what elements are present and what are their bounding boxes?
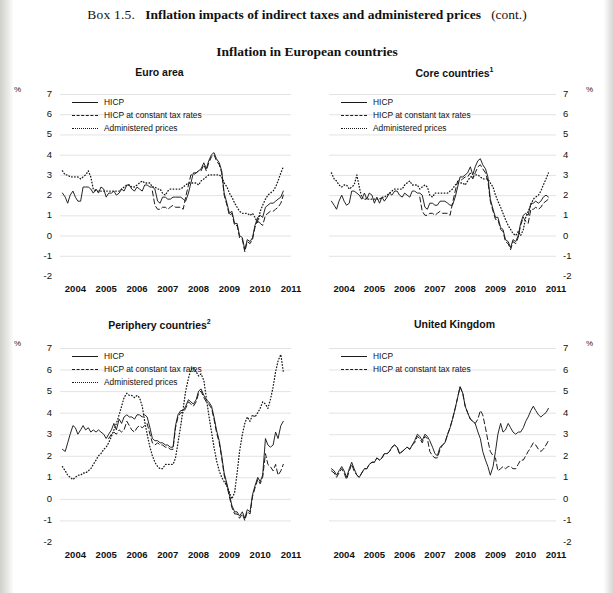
legend-united-kingdom: HICPHICP at constant tax rates <box>341 350 471 376</box>
legend-swatch-dashed-icon <box>72 110 98 120</box>
legend-periphery-countries: HICPHICP at constant tax ratesAdminister… <box>72 350 202 389</box>
x-axis-tick-label: 2011 <box>271 549 311 560</box>
y-axis-tick-label: 7 <box>30 88 52 99</box>
y-axis-tick-label: 6 <box>563 108 585 119</box>
y-axis-tick-label: 5 <box>30 385 52 396</box>
chart-panel-euro-area: Euro area76543210-1-2%200420052006200720… <box>12 66 307 310</box>
legend-swatch-solid-icon <box>72 351 98 361</box>
y-axis-tick-label: -2 <box>563 270 585 281</box>
legend-label: HICP <box>104 351 124 361</box>
box-heading: Box 1.5. Inflation impacts of indirect t… <box>0 7 614 23</box>
legend-item: HICP at constant tax rates <box>341 363 471 375</box>
y-axis-tick-label: -1 <box>563 250 585 261</box>
x-axis-tick-label: 2011 <box>536 283 576 294</box>
y-axis-tick-label: 2 <box>30 450 52 461</box>
y-axis-tick-label: 6 <box>30 364 52 375</box>
y-axis-unit-label: % <box>14 85 21 94</box>
y-axis-tick-label: 2 <box>563 450 585 461</box>
chart-title-text: Core countries <box>415 67 489 79</box>
y-axis-tick-label: 5 <box>563 128 585 139</box>
chart-title-euro-area: Euro area <box>12 66 307 78</box>
legend-item: HICP at constant tax rates <box>72 109 202 121</box>
plot-area-united-kingdom <box>329 348 556 542</box>
legend-swatch-dashed-icon <box>72 364 98 374</box>
series-line <box>152 155 283 252</box>
y-axis-tick-label: 0 <box>563 493 585 504</box>
figure-subtitle: Inflation in European countries <box>0 44 614 60</box>
chart-title-footnote-marker: 1 <box>490 66 494 73</box>
y-axis-tick-label: 2 <box>563 189 585 200</box>
chart-panel-core-countries: Core countries176543210-1-2%200420052006… <box>307 66 602 310</box>
legend-label: HICP <box>104 97 124 107</box>
y-axis-tick-label: 5 <box>30 128 52 139</box>
chart-title-footnote-marker: 2 <box>207 318 211 325</box>
legend-item: HICP <box>72 96 202 108</box>
box-title: Inflation impacts of indirect taxes and … <box>145 7 481 22</box>
y-axis-tick-label: -2 <box>30 536 52 547</box>
y-axis-tick-label: 3 <box>563 169 585 180</box>
legend-item: HICP <box>341 350 471 362</box>
legend-label: HICP <box>373 351 393 361</box>
series-line <box>62 153 283 250</box>
legend-item: Administered prices <box>341 122 471 134</box>
y-axis-tick-label: -1 <box>563 514 585 525</box>
y-axis-tick-label: 5 <box>563 385 585 396</box>
chart-title-text: Euro area <box>135 66 183 78</box>
legend-label: HICP at constant tax rates <box>104 110 202 120</box>
legend-core-countries: HICPHICP at constant tax ratesAdminister… <box>341 96 471 135</box>
chart-title-text: United Kingdom <box>414 318 495 330</box>
y-axis-tick-label: 4 <box>563 407 585 418</box>
y-axis-tick-label: 2 <box>30 189 52 200</box>
y-axis-tick-label: 0 <box>30 230 52 241</box>
legend-swatch-dotted-icon <box>72 123 98 133</box>
legend-item: HICP at constant tax rates <box>341 109 471 121</box>
legend-label: HICP at constant tax rates <box>373 110 471 120</box>
y-axis-tick-label: -2 <box>563 536 585 547</box>
y-axis-tick-label: 1 <box>563 209 585 220</box>
chart-title-text: Periphery countries <box>108 319 207 331</box>
legend-label: HICP <box>373 97 393 107</box>
y-axis-tick-label: 1 <box>30 209 52 220</box>
series-line <box>420 165 549 250</box>
legend-item: Administered prices <box>72 376 202 388</box>
box-continued: (cont.) <box>491 7 527 22</box>
y-axis-tick-label: 1 <box>563 471 585 482</box>
legend-label: HICP at constant tax rates <box>373 364 471 374</box>
chart-title-united-kingdom: United Kingdom <box>307 318 602 330</box>
y-axis-tick-label: -1 <box>30 514 52 525</box>
legend-swatch-dotted-icon <box>341 123 367 133</box>
legend-label: Administered prices <box>104 377 178 387</box>
plot-svg-united-kingdom <box>329 348 556 542</box>
box-number: Box 1.5. <box>87 7 135 22</box>
y-axis-tick-label: 1 <box>30 471 52 482</box>
x-axis-tick-label: 2011 <box>271 283 311 294</box>
x-axis-tick-label: 2011 <box>536 549 576 560</box>
y-axis-unit-label: % <box>586 339 593 348</box>
y-axis-tick-label: 3 <box>30 428 52 439</box>
legend-item: Administered prices <box>72 122 202 134</box>
legend-swatch-solid-icon <box>341 351 367 361</box>
legend-label: Administered prices <box>373 123 447 133</box>
y-axis-tick-label: -2 <box>30 270 52 281</box>
legend-euro-area: HICPHICP at constant tax ratesAdminister… <box>72 96 202 135</box>
y-axis-tick-label: -1 <box>30 250 52 261</box>
y-axis-tick-label: 4 <box>30 407 52 418</box>
y-axis-unit-label: % <box>14 339 21 348</box>
y-axis-tick-label: 6 <box>30 108 52 119</box>
y-axis-unit-label: % <box>586 85 593 94</box>
legend-item: HICP <box>341 96 471 108</box>
chart-panel-united-kingdom: United Kingdom76543210-1-2%2004200520062… <box>307 318 602 582</box>
legend-swatch-solid-icon <box>72 97 98 107</box>
series-line <box>109 391 284 520</box>
y-axis-tick-label: 7 <box>563 342 585 353</box>
legend-label: HICP at constant tax rates <box>104 364 202 374</box>
chart-panel-periphery-countries: Periphery countries276543210-1-2%2004200… <box>12 318 307 582</box>
legend-item: HICP at constant tax rates <box>72 363 202 375</box>
series-line <box>331 173 548 236</box>
legend-swatch-solid-icon <box>341 97 367 107</box>
page-root: Box 1.5. Inflation impacts of indirect t… <box>0 0 614 593</box>
legend-swatch-dashed-icon <box>341 364 367 374</box>
y-axis-tick-label: 3 <box>30 169 52 180</box>
y-axis-tick-label: 3 <box>563 428 585 439</box>
series-line <box>331 387 548 480</box>
